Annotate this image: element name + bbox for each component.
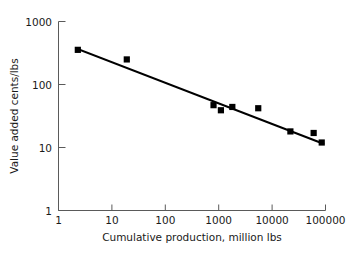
x-axis-ticks (59, 205, 326, 211)
data-point-marker (218, 107, 224, 113)
y-tick-label-1: 1 (45, 205, 52, 217)
data-point-marker (75, 47, 81, 53)
trend-line-group (79, 49, 323, 143)
axes-group (59, 22, 326, 211)
x-tick-label-100000: 100000 (305, 214, 345, 226)
data-point-marker (319, 139, 325, 145)
data-point-marker (210, 102, 216, 108)
x-axis-title: Cumulative production, million lbs (102, 231, 282, 243)
x-tick-label-1000: 1000 (205, 214, 232, 226)
data-point-marker (287, 128, 293, 134)
x-tick-label-10: 10 (105, 214, 118, 226)
y-tick-label-100: 100 (32, 79, 52, 91)
y-axis-title: Value added cents/lbs (8, 58, 20, 173)
data-point-marker (311, 130, 317, 136)
data-point-marker (255, 105, 261, 111)
y-tick-label-1000: 1000 (25, 16, 52, 28)
chart-canvas: 1000 100 10 1 1 10 100 1000 10000 100000… (0, 0, 356, 261)
x-tick-label-100: 100 (155, 214, 175, 226)
y-tick-label-10: 10 (39, 142, 52, 154)
trend-line (79, 49, 323, 143)
experience-curve-chart: 1000 100 10 1 1 10 100 1000 10000 100000… (0, 0, 356, 261)
x-tick-label-1: 1 (55, 214, 62, 226)
data-point-marker (229, 104, 235, 110)
data-point-marker (124, 56, 130, 62)
x-tick-label-10000: 10000 (255, 214, 288, 226)
y-axis-ticks (59, 22, 66, 211)
